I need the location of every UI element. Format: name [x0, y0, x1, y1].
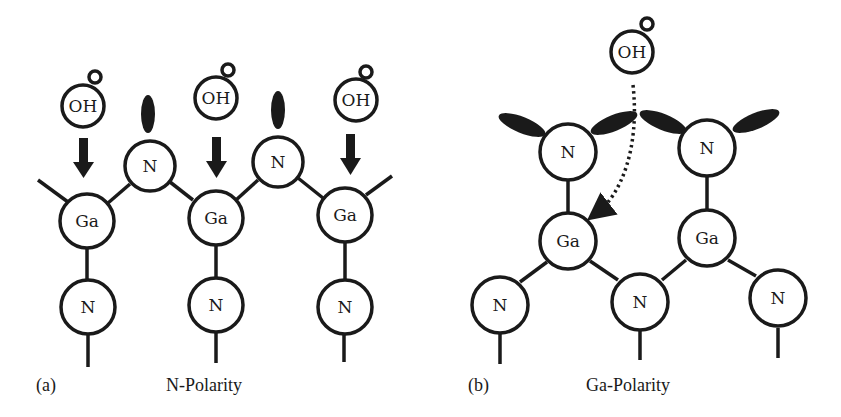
panel-b-ga-polarity: OH N N Ga Ga N N N (b) Ga-Polarity [468, 18, 806, 396]
n-atom: N [540, 124, 596, 180]
down-arrow-icon [73, 138, 94, 178]
n-atom: N [472, 277, 528, 333]
panel-title-a: N-Polarity [166, 375, 242, 395]
svg-text:N: N [493, 295, 508, 315]
ga-atom: Ga [60, 194, 114, 248]
n-atom: N [750, 270, 806, 326]
svg-text:N: N [561, 142, 576, 162]
svg-text:Ga: Ga [695, 228, 719, 248]
lone-pair-lobe [141, 95, 155, 133]
svg-text:OH: OH [202, 88, 231, 108]
down-arrow-icon [206, 137, 227, 178]
svg-text:N: N [771, 288, 786, 308]
svg-text:N: N [209, 295, 224, 315]
svg-text:Ga: Ga [556, 231, 580, 251]
svg-text:N: N [633, 292, 648, 312]
panel-tag-b: (b) [468, 375, 489, 396]
svg-text:N: N [271, 152, 286, 172]
ga-atom: Ga [540, 213, 596, 269]
panel-title-b: Ga-Polarity [586, 375, 670, 395]
n-atom: N [189, 278, 243, 332]
oh-group: OH [611, 18, 653, 73]
ga-atom: Ga [679, 210, 735, 266]
ga-atom: Ga [189, 191, 243, 245]
n-atom: N [253, 137, 303, 187]
lone-pair-lobes [496, 104, 782, 142]
panel-a-n-polarity: OH OH OH N N Ga Ga Ga N N N (a) N-Polari… [36, 64, 392, 396]
svg-text:N: N [338, 297, 353, 317]
svg-text:OH: OH [618, 42, 647, 62]
n-atom: N [61, 280, 115, 334]
gan-polarity-diagram: OH OH OH N N Ga Ga Ga N N N (a) N-Polari… [0, 0, 841, 417]
svg-text:N: N [143, 156, 158, 176]
svg-text:OH: OH [69, 96, 98, 116]
svg-text:Ga: Ga [333, 205, 357, 225]
n-atom: N [612, 274, 668, 330]
lone-pair-lobe [271, 91, 285, 129]
n-atom: N [318, 280, 372, 334]
down-arrow-icon [340, 134, 361, 175]
svg-text:Ga: Ga [75, 211, 99, 231]
attack-arrows [73, 134, 361, 178]
dotted-attack-arrow [598, 85, 634, 212]
n-atom: N [679, 120, 735, 176]
svg-text:N: N [81, 297, 96, 317]
bonds [500, 176, 778, 364]
panel-tag-a: (a) [36, 375, 56, 396]
svg-text:N: N [700, 138, 715, 158]
oh-group: OH [335, 66, 377, 121]
oh-group: OH [62, 71, 104, 127]
n-atom: N [125, 141, 175, 191]
ga-atom: Ga [318, 188, 372, 242]
svg-text:OH: OH [342, 90, 371, 110]
svg-text:Ga: Ga [204, 208, 228, 228]
oh-group: OH [195, 64, 237, 119]
